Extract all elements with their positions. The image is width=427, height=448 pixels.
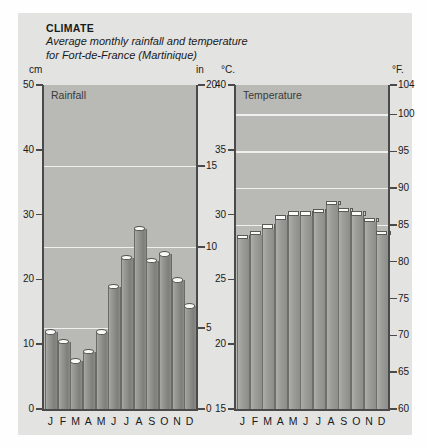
axis-tick-label: 60 <box>398 403 409 414</box>
axis-tick <box>228 84 235 86</box>
bar <box>351 216 364 410</box>
axis-tick <box>390 84 397 86</box>
axis-tick <box>390 224 397 226</box>
axis-tick-label: 85 <box>398 219 409 230</box>
axis-tick-label: 70 <box>398 329 409 340</box>
bar-side-face <box>376 218 379 222</box>
month-label: M <box>71 415 80 427</box>
month-label: J <box>111 415 116 427</box>
month-label: J <box>124 415 129 427</box>
axis-tick <box>228 214 235 216</box>
rainfall-axis-left <box>42 85 44 410</box>
month-label: O <box>160 415 168 427</box>
bar-top-face <box>364 218 375 222</box>
axis-tick <box>390 187 397 189</box>
bar-side-face <box>338 201 341 205</box>
rainfall-plot-area: Rainfall <box>44 85 196 410</box>
month-label: N <box>365 415 373 427</box>
axis-tick <box>228 408 235 410</box>
temperature-axis-right <box>388 85 390 410</box>
bar <box>237 239 250 410</box>
rainfall-bars <box>44 85 196 410</box>
month-label: N <box>173 415 181 427</box>
bar <box>364 222 377 410</box>
temperature-axis-bottom <box>234 409 390 411</box>
axis-tick <box>390 371 397 373</box>
bar-top-face <box>351 211 362 215</box>
bar-cap <box>184 303 195 309</box>
axis-tick-label: 10 <box>206 241 217 252</box>
month-label: F <box>60 415 66 427</box>
bar-top-face <box>313 209 324 213</box>
axis-tick-label: 104 <box>398 79 415 90</box>
axis-tick <box>198 165 205 167</box>
axis-tick <box>390 408 397 410</box>
unit-label-fahrenheit: °F. <box>392 64 404 75</box>
axis-tick-label: 35 <box>0 144 226 155</box>
axis-tick-label: 65 <box>398 366 409 377</box>
bar-cap <box>70 358 81 364</box>
bar-top-face <box>288 211 299 215</box>
month-label: F <box>252 415 258 427</box>
temperature-bars <box>236 85 388 410</box>
axis-tick <box>390 151 397 153</box>
axis-tick-label: 5 <box>206 322 212 333</box>
temperature-month-labels: JFMAMJJASOND <box>236 415 388 431</box>
unit-label-celsius: °C. <box>221 64 235 75</box>
bar-cap <box>146 258 157 264</box>
month-label: D <box>186 415 194 427</box>
month-label: J <box>316 415 321 427</box>
axis-tick-label: 80 <box>398 256 409 267</box>
bar-cap <box>108 284 119 290</box>
bar-cap <box>96 329 107 335</box>
axis-tick-label: 40 <box>0 79 226 90</box>
month-label: S <box>340 415 347 427</box>
bar-top-face <box>237 235 248 239</box>
axis-tick-label: 75 <box>398 293 409 304</box>
bar-top-face <box>275 215 286 219</box>
month-label: J <box>303 415 308 427</box>
figure-subtitle-line-2: for Fort-de-France (Martinique) <box>46 49 376 62</box>
rainfall-month-labels: JFMAMJJASOND <box>44 415 196 431</box>
month-label: A <box>85 415 92 427</box>
bar <box>58 342 71 410</box>
month-label: A <box>277 415 284 427</box>
axis-tick-label: 15 <box>0 403 226 414</box>
bar-top-face <box>262 224 273 228</box>
axis-tick <box>228 343 235 345</box>
month-label: D <box>378 415 386 427</box>
axis-tick <box>390 261 397 263</box>
axis-tick-label: 25 <box>0 273 226 284</box>
axis-tick-label: 30 <box>0 209 226 220</box>
climate-figure: CLIMATE Average monthly rainfall and tem… <box>0 0 427 448</box>
bar-top-face <box>338 208 349 212</box>
axis-tick-label: 95 <box>398 145 409 156</box>
figure-subtitle-line-1: Average monthly rainfall and temperature <box>46 35 376 48</box>
month-label: O <box>352 415 360 427</box>
axis-tick-label: 100 <box>398 108 415 119</box>
month-label: M <box>97 415 106 427</box>
bar <box>313 213 326 410</box>
bar-side-face <box>363 211 366 215</box>
bar-top-face <box>300 211 311 215</box>
axis-tick-label: 15 <box>206 160 217 171</box>
bar <box>288 216 301 410</box>
bar <box>83 352 96 410</box>
month-label: A <box>327 415 334 427</box>
month-label: A <box>135 415 142 427</box>
axis-tick <box>228 279 235 281</box>
temperature-plot-area: Temperature <box>236 85 388 410</box>
axis-tick <box>198 246 205 248</box>
bar-top-face <box>376 231 387 235</box>
bar <box>300 216 313 410</box>
bar-cap <box>134 226 145 232</box>
month-label: J <box>240 415 245 427</box>
temperature-axis-left <box>234 85 236 410</box>
axis-tick <box>390 114 397 116</box>
bar <box>338 212 351 410</box>
month-label: M <box>289 415 298 427</box>
bar <box>250 235 263 410</box>
axis-tick-label: 20 <box>0 338 226 349</box>
bar <box>134 229 147 410</box>
bar <box>262 229 275 410</box>
